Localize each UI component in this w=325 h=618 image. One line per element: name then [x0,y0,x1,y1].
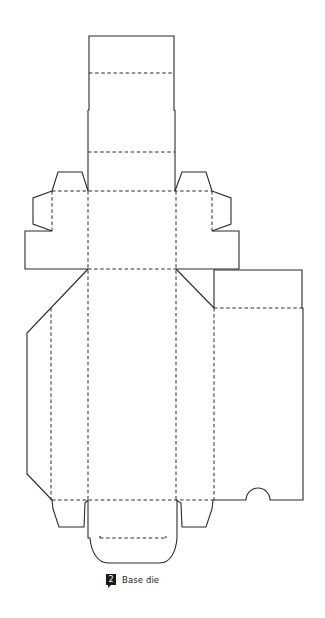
left-diagonal-upper [27,269,88,500]
bottom-flap [88,500,177,563]
figure-number-badge: 2 [106,574,116,585]
glue-panel-top [214,270,303,308]
right-top-tab [175,172,212,191]
right-bottom-tab [176,500,213,527]
left-side-tab [33,191,52,231]
left-wing-flap [25,231,88,269]
figure-caption-text: Base die [122,575,159,585]
right-side-tab [212,191,231,231]
glue-panel-right-and-bottom [214,308,303,500]
figure-caption: 2 Base die [106,574,159,585]
right-diagonal [176,269,214,308]
left-top-tab [52,172,88,191]
top-panel-outline [88,36,175,110]
box-dieline-diagram [0,0,325,618]
fold-lines [51,73,303,538]
cut-lines [25,36,303,563]
right-wing-flap [176,231,239,269]
left-bottom-tab [52,500,88,527]
